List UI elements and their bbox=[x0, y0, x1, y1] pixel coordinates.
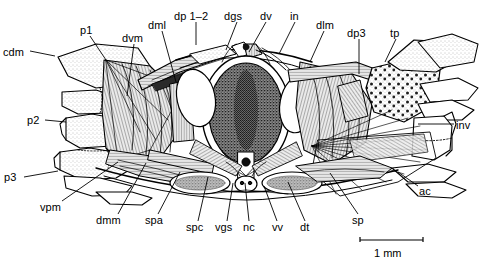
label-p2: p2 bbox=[27, 115, 39, 126]
label-p3: p3 bbox=[4, 172, 16, 183]
label-vv: vv bbox=[272, 222, 283, 233]
label-sp: sp bbox=[352, 215, 364, 226]
scale-bar-label: 1 mm bbox=[374, 247, 402, 259]
label-dp1-2: dp 1–2 bbox=[174, 11, 208, 22]
label-ac: ac bbox=[419, 186, 431, 197]
label-dmm: dmm bbox=[96, 215, 121, 226]
label-dml: dml bbox=[148, 20, 166, 31]
label-dt: dt bbox=[300, 222, 309, 233]
label-dv: dv bbox=[260, 11, 272, 22]
label-inv: inv bbox=[456, 120, 470, 131]
label-nc: nc bbox=[243, 222, 255, 233]
figure-container: cdmp1dvmdmldp 1–2dgsdvindlmdp3tpinvacp2p… bbox=[0, 0, 481, 259]
label-tp: tp bbox=[390, 28, 399, 39]
label-dvm: dvm bbox=[122, 33, 143, 44]
label-p1: p1 bbox=[80, 25, 92, 36]
label-dlm: dlm bbox=[316, 20, 334, 31]
label-cdm: cdm bbox=[3, 47, 24, 58]
anatomical-illustration bbox=[0, 0, 481, 259]
label-dgs: dgs bbox=[224, 11, 242, 22]
label-spa: spa bbox=[145, 215, 163, 226]
label-dp3: dp3 bbox=[347, 28, 366, 39]
label-vpm: vpm bbox=[40, 202, 61, 213]
label-spc: spc bbox=[186, 222, 203, 233]
label-in: in bbox=[290, 11, 299, 22]
label-vgs: vgs bbox=[215, 222, 232, 233]
